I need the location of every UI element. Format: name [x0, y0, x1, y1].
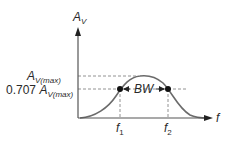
f2-subscript: 2	[167, 128, 171, 137]
f1-point	[117, 86, 123, 92]
y-axis-subscript: V	[81, 17, 86, 26]
y-axis-symbol: A	[73, 10, 81, 24]
y-axis-label: AV	[73, 11, 86, 26]
max-gain-symbol: A	[27, 69, 35, 83]
bandwidth-label: BW	[134, 83, 153, 95]
f1-subscript: 1	[119, 128, 123, 137]
frequency-response-diagram: AV f AV(max) 0.707 AV(max) BW f1 f2	[0, 0, 233, 142]
cutoff-gain-subscript: V(max)	[47, 90, 73, 99]
f2-label: f2	[164, 122, 172, 137]
x-axis-label: f	[216, 112, 219, 124]
bw-arrow-right-icon	[159, 86, 165, 92]
f1-label: f1	[116, 122, 124, 137]
cutoff-gain-label: 0.707 AV(max)	[6, 84, 73, 99]
bw-arrow-left-icon	[123, 86, 129, 92]
x-axis-arrow-icon	[204, 115, 213, 121]
y-axis-arrow-icon	[75, 27, 81, 36]
cutoff-gain-prefix: 0.707	[6, 83, 39, 97]
f2-point	[165, 86, 171, 92]
